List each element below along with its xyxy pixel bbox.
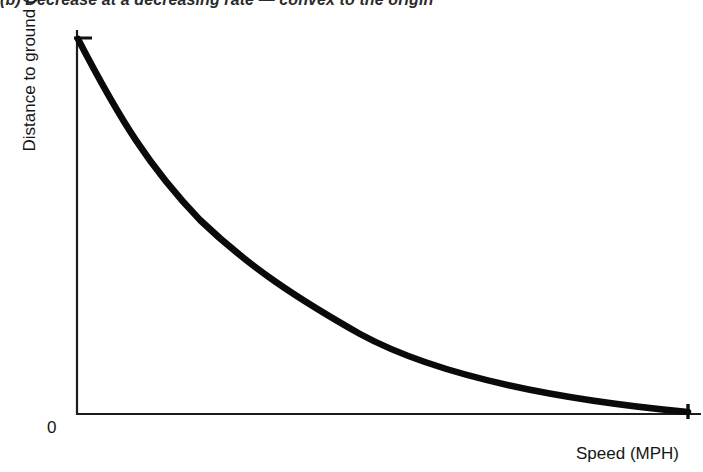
plot-area [0, 0, 703, 472]
data-curve [78, 39, 688, 412]
figure-container: (b) Decrease at a decreasing rate — conv… [0, 0, 703, 472]
